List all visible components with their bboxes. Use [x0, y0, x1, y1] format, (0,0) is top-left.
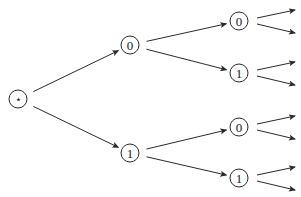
node-00: 0 [230, 12, 248, 30]
leaf-arrow-down-n11 [257, 181, 295, 190]
leaf-arrow-up-n11 [257, 167, 295, 175]
edges [33, 10, 295, 190]
node-10-label: 0 [236, 120, 243, 135]
node-10: 0 [230, 118, 248, 136]
node-1: 1 [121, 144, 139, 162]
leaf-arrow-down-n00 [257, 24, 295, 33]
node-11-label: 1 [236, 171, 243, 186]
binary-tree-diagram: ⋆ 0 1 0 1 0 1 [0, 0, 301, 197]
root-node: ⋆ [9, 90, 27, 108]
leaf-arrow-up-n00 [257, 10, 295, 18]
edge-arrow-root-to-n1 [33, 106, 118, 147]
node-1-label: 1 [127, 146, 134, 161]
edge-arrow-n0-to-n01 [146, 49, 226, 70]
leaf-arrow-down-n10 [257, 130, 295, 139]
node-01-label: 1 [236, 66, 243, 81]
leaf-arrow-up-n10 [257, 116, 295, 124]
edge-arrow-root-to-n0 [33, 51, 118, 92]
node-0: 0 [121, 36, 139, 54]
node-11: 1 [230, 169, 248, 187]
node-00-label: 0 [236, 14, 243, 29]
root-star-label: ⋆ [15, 93, 22, 105]
leaf-arrow-down-n01 [257, 76, 295, 85]
leaf-arrow-up-n01 [257, 62, 295, 70]
node-01: 1 [230, 64, 248, 82]
node-0-label: 0 [127, 38, 134, 53]
edge-arrow-n1-to-n11 [147, 157, 227, 175]
edge-arrow-n1-to-n10 [147, 130, 227, 149]
nodes: ⋆ 0 1 0 1 0 1 [9, 12, 248, 187]
edge-arrow-n0-to-n00 [147, 24, 227, 42]
